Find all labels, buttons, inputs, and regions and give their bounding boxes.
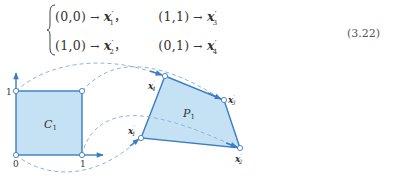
quad-polygon <box>141 76 240 148</box>
y-tick-one: 1 <box>6 87 12 97</box>
vertex-label-x2: x′2 <box>234 152 243 165</box>
vertex-label-x4: x′4 <box>147 79 156 92</box>
vertex-label-x1: x′1 <box>127 124 136 137</box>
mapping-figure: 1 0 1 C1 P1 x′1 x′2 x′3 x′4 <box>0 0 395 180</box>
origin-label: 0 <box>13 159 19 169</box>
x-tick-one: 1 <box>80 159 86 169</box>
vertex-label-x3: x′3 <box>227 93 236 106</box>
